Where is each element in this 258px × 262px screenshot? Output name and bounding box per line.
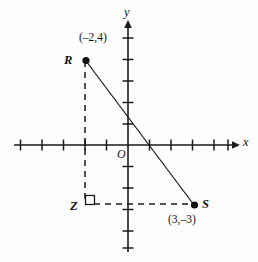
point-dot-S [191,201,198,208]
y-axis-arrowhead [124,20,132,28]
x-axis-arrowhead [232,141,240,149]
right-angle-square-icon [86,196,95,205]
y-axis-label: y [124,6,130,19]
point-S-coordinate-label: (3,–3) [168,214,196,226]
point-S-label: S [202,198,209,211]
segment-RS [86,61,194,205]
point-R-coordinate-label: (–2,4) [79,32,107,44]
coordinate-plane-figure: (–2,4) R S (3,–3) Z O x y [0,0,258,262]
origin-label: O [117,148,126,160]
diagram-canvas [0,0,258,262]
point-Z-label: Z [70,200,78,213]
point-dot-R [82,57,89,64]
x-axis-label: x [243,136,249,149]
point-R-label: R [64,54,72,67]
